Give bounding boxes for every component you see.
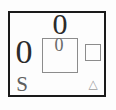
center-square-zero-label: 0 (53, 36, 65, 54)
s-label: S (15, 74, 29, 95)
figure-canvas: 0 0 0 S △ (0, 0, 116, 110)
triangle-icon: △ (87, 78, 99, 90)
left-zero-label: 0 (14, 35, 34, 69)
right-square (85, 44, 101, 61)
